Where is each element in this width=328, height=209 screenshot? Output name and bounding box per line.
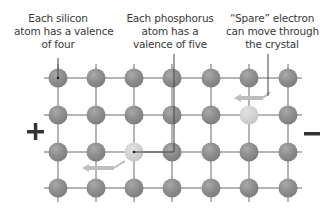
- silicon-atom: [202, 106, 221, 125]
- arrow-tail: [263, 92, 270, 98]
- silicon-atom: [163, 69, 182, 88]
- silicon-atom: [125, 179, 144, 198]
- silicon-atom: [87, 143, 106, 162]
- silicon-atom: [279, 69, 298, 88]
- silicon-atom: [279, 179, 298, 198]
- silicon-atom: [87, 106, 106, 125]
- negative-terminal-icon: [304, 132, 320, 136]
- electron-arrow-upper: [234, 92, 270, 102]
- plus-vertical: [34, 123, 38, 140]
- silicon-atom: [279, 143, 298, 162]
- silicon-atom: [279, 106, 298, 125]
- arrow-tail: [114, 161, 125, 168]
- silicon-atom: [240, 143, 259, 162]
- silicon-atom: [49, 106, 68, 125]
- silicon-atom: [163, 106, 182, 125]
- crystal-lattice-diagram: [0, 0, 328, 209]
- silicon-atom: [202, 69, 221, 88]
- electron-arrow-lower: [82, 161, 125, 172]
- arrow-head-icon: [234, 94, 241, 102]
- silicon-atom: [202, 143, 221, 162]
- silicon-atom: [240, 179, 259, 198]
- silicon-atom: [202, 179, 221, 198]
- silicon-atom: [49, 143, 68, 162]
- silicon-atom: [87, 69, 106, 88]
- arrow-head-icon: [82, 164, 89, 172]
- phosphorus-leader-dot: [133, 151, 136, 154]
- phosphorus-leader-line: [134, 54, 174, 152]
- positive-terminal-icon: [27, 123, 44, 140]
- spare-electron-atom: [240, 106, 259, 125]
- silicon-leader-dot: [57, 77, 60, 80]
- silicon-atom: [125, 69, 144, 88]
- silicon-atom: [125, 106, 144, 125]
- silicon-atom: [49, 179, 68, 198]
- silicon-atom: [163, 179, 182, 198]
- silicon-atom: [87, 179, 106, 198]
- leader-lines: [57, 54, 268, 153]
- silicon-atom: [240, 69, 259, 88]
